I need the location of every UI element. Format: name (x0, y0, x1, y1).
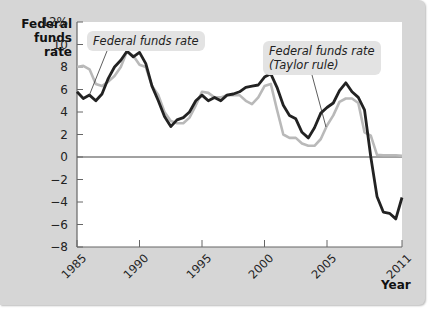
callout-taylor-line1: Federal funds rate (269, 44, 375, 58)
callout-taylor: Federal funds rate (Taylor rule) (263, 41, 381, 75)
callout-actual: Federal funds rate (87, 31, 205, 51)
callout-taylor-line2: (Taylor rule) (269, 58, 375, 72)
series-taylor-line (77, 51, 402, 219)
callout-actual-text: Federal funds rate (93, 34, 199, 48)
